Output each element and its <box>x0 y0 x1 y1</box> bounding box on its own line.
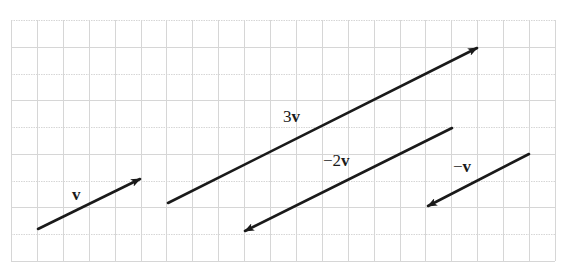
vector-arrow-negv <box>428 154 529 206</box>
vector-arrows <box>38 48 529 231</box>
label-neg2v-coefficient: −2 <box>323 151 341 170</box>
label-3v: 3v <box>283 108 300 125</box>
label-3v-coefficient: 3 <box>283 107 292 126</box>
label-v-symbol: v <box>72 185 81 204</box>
label-3v-symbol: v <box>292 107 301 126</box>
vector-grid-figure <box>0 0 579 275</box>
label-negv-coefficient: − <box>453 157 463 176</box>
label-negv: −v <box>453 158 471 175</box>
grid-lines <box>11 20 556 262</box>
label-neg2v: −2v <box>323 152 350 169</box>
label-neg2v-symbol: v <box>341 151 350 170</box>
label-negv-symbol: v <box>463 157 472 176</box>
label-v: v <box>72 186 81 203</box>
